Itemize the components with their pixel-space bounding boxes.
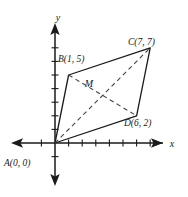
y-axis-label: y [55, 12, 61, 23]
coordinate-plane-figure: A(0, 0) B(1, 5) C(7, 7) D(6, 2) M x y [0, 0, 188, 197]
midpoint-label-m: M [84, 78, 94, 89]
vertex-label-d: D(6, 2) [123, 118, 151, 129]
vertex-label-b: B(1, 5) [58, 54, 84, 65]
vertex-label-a: A(0, 0) [3, 158, 30, 169]
axes-group [11, 23, 163, 186]
figure-canvas: A(0, 0) B(1, 5) C(7, 7) D(6, 2) M x y [0, 0, 188, 197]
x-axis-label: x [169, 138, 175, 149]
vertex-label-c: C(7, 7) [128, 37, 155, 48]
